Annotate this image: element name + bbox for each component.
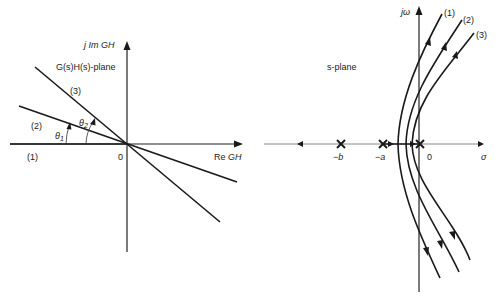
theta2-label: θ2 (79, 118, 88, 129)
right-origin-label: 0 (427, 152, 432, 162)
line-1-label: (1) (27, 152, 38, 162)
s-plane-title: s-plane (327, 62, 357, 72)
locus-2-label: (2) (463, 15, 474, 25)
imag-axis-label: j Im GH (83, 40, 115, 50)
gh-plane-title: G(s)H(s)-plane (56, 62, 116, 72)
sigma-axis-arrow-icon (478, 141, 484, 147)
jw-axis-arrow-icon (416, 6, 423, 15)
s-plane-plot: jω s-plane (1) (2) (3) −b −a 0 σ (264, 6, 487, 292)
left-origin-label: 0 (118, 152, 123, 162)
pole-minus-b-label: −b (333, 152, 343, 162)
theta2-arrow-icon (90, 118, 96, 126)
locus-arrow-left-icon (297, 141, 303, 147)
jw-axis-label: jω (400, 7, 410, 17)
real-axis-label: Re GH (214, 152, 242, 162)
real-axis-arrow-icon (234, 141, 243, 148)
line-3-label: (3) (70, 86, 81, 96)
locus-1-label: (1) (444, 8, 455, 18)
locus-3-upper-arrow-icon (452, 51, 458, 59)
line-2-label: (2) (31, 121, 42, 131)
imag-axis-arrow-icon (124, 41, 131, 50)
theta1-label: θ1 (55, 131, 64, 142)
locus-3-label: (3) (476, 30, 487, 40)
locus-2-lower-arrow-icon (437, 240, 443, 249)
figure: j Im GH G(s)H(s)-plane (3) (2) (1) 0 Re … (0, 0, 499, 302)
locus-1-lower-arrow-icon (423, 247, 429, 256)
sigma-axis-label: σ (481, 152, 487, 162)
locus-arrow-right-icon (388, 141, 394, 147)
gh-plane-plot: j Im GH G(s)H(s)-plane (3) (2) (1) 0 Re … (10, 40, 243, 252)
locus-1 (398, 14, 442, 278)
locus-3-lower-arrow-icon (449, 231, 455, 240)
locus-arrow-breakaway-icon (410, 141, 416, 147)
pole-minus-a-label: −a (375, 152, 385, 162)
